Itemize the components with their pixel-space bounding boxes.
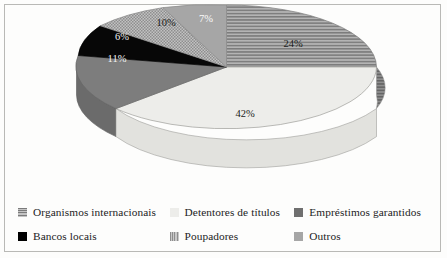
legend-item-poupadores[interactable]: Poupadores xyxy=(170,224,295,248)
legend-swatch-bancos-locais xyxy=(18,232,27,241)
legend-item-detentores-de-titulos[interactable]: Detentores de títulos xyxy=(170,200,295,224)
legend-label-poupadores: Poupadores xyxy=(185,230,239,242)
legend-item-organismos-internacionais[interactable]: Organismos internacionais xyxy=(18,200,170,224)
data-label-bancos: 6% xyxy=(115,31,129,42)
pie-chart-svg: 24% 42% 11% 6% 10% 7% xyxy=(0,0,447,195)
chart-plot-area: 24% 42% 11% 6% 10% 7% xyxy=(0,0,447,195)
legend-label-detentores-de-titulos: Detentores de títulos xyxy=(185,206,281,218)
data-label-outros: 7% xyxy=(199,13,213,24)
legend-item-bancos-locais[interactable]: Bancos locais xyxy=(18,224,170,248)
depth-wall-organismos xyxy=(377,67,386,109)
legend-swatch-outros xyxy=(294,232,303,241)
legend-item-outros[interactable]: Outros xyxy=(294,224,428,248)
legend-label-bancos-locais: Bancos locais xyxy=(33,230,97,242)
pie-chart-figure: 24% 42% 11% 6% 10% 7% Organismos interna… xyxy=(0,0,447,258)
data-label-poupadores: 10% xyxy=(156,17,176,28)
pie-slices xyxy=(76,5,377,129)
legend-label-emprestimos-garantidos: Empréstimos garantidos xyxy=(309,206,421,218)
legend-swatch-organismos-internacionais xyxy=(18,208,27,217)
chart-legend: Organismos internacionais Detentores de … xyxy=(18,200,428,248)
legend-label-organismos-internacionais: Organismos internacionais xyxy=(33,206,156,218)
legend-row-2: Bancos locais Poupadores Outros xyxy=(18,224,428,248)
legend-row-1: Organismos internacionais Detentores de … xyxy=(18,200,428,224)
data-label-organismos: 24% xyxy=(283,38,303,49)
data-label-detentores: 42% xyxy=(235,108,255,119)
legend-swatch-poupadores xyxy=(170,232,179,241)
legend-swatch-emprestimos-garantidos xyxy=(294,208,303,217)
pie-slice-organismos-internacionais[interactable] xyxy=(227,5,377,67)
legend-label-outros: Outros xyxy=(309,230,340,242)
legend-item-emprestimos-garantidos[interactable]: Empréstimos garantidos xyxy=(294,200,428,224)
legend-swatch-detentores-de-titulos xyxy=(170,208,179,217)
data-label-emprestimos: 11% xyxy=(108,53,127,64)
